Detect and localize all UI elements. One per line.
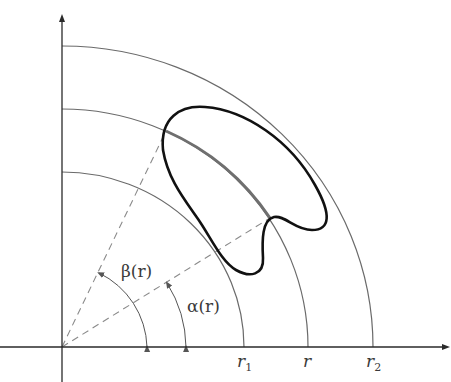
alpha-label: α(r) [187,296,220,316]
beta-angle-arc [99,273,147,347]
polar-region-diagram: β(r) α(r) r1 r r2 [0,0,451,382]
r-label: r [303,351,312,371]
arc-r1 [62,172,244,347]
r1-label: r1 [237,351,252,374]
r1-label-sub: 1 [245,361,252,374]
alpha-ray [62,218,270,347]
region-boundary [163,107,327,274]
r2-label: r2 [366,351,381,374]
arc-r-inside-region [166,131,270,218]
r2-label-sub: 2 [374,361,381,374]
beta-label: β(r) [121,261,152,281]
alpha-angle-arc [167,283,186,347]
arc-r [62,109,308,347]
